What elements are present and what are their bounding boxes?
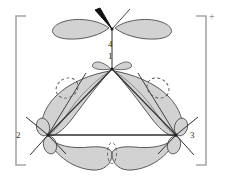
atom-label-2: 2 bbox=[16, 131, 21, 140]
charge-superscript: + bbox=[209, 12, 215, 22]
atom-center-2 bbox=[46, 133, 49, 136]
atom-center-1 bbox=[110, 67, 113, 70]
orbital-diagram-canvas bbox=[0, 0, 225, 180]
atom-center-4 bbox=[110, 27, 113, 30]
atom-label-1: 1 bbox=[108, 52, 113, 61]
left-bracket bbox=[16, 16, 26, 165]
orbital-small-lobe-atom-1-left bbox=[92, 62, 111, 70]
orbital-lobe-edge-1-3 bbox=[114, 71, 182, 136]
orbital-lobe-edge-1-2 bbox=[42, 71, 110, 136]
orbital-diagram-figure bbox=[0, 0, 225, 180]
atom-label-3: 3 bbox=[190, 131, 195, 140]
orbital-lobe-edge-2-3-right bbox=[112, 137, 176, 170]
atom-center-3 bbox=[174, 133, 177, 136]
orbital-lobe-edge-2-3-left bbox=[48, 137, 112, 170]
atom-label-4: 4 bbox=[108, 40, 113, 49]
orbital-small-lobe-atom-1-right bbox=[113, 62, 132, 70]
right-bracket bbox=[196, 16, 206, 165]
